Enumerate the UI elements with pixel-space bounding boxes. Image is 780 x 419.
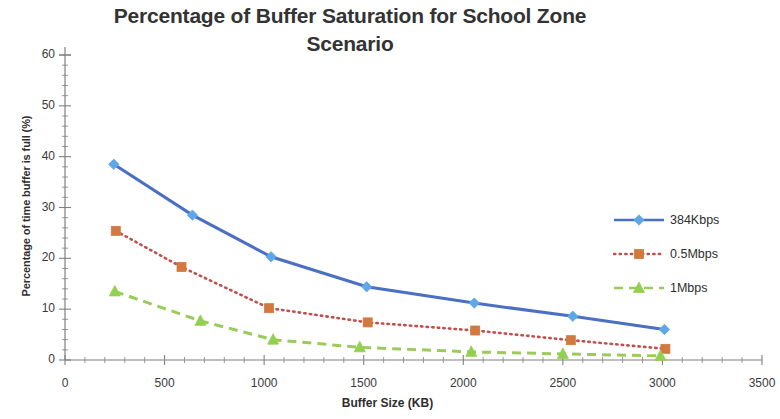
data-point-square xyxy=(265,304,274,313)
legend-label: 0.5Mbps xyxy=(666,247,718,261)
data-point-triangle xyxy=(195,315,206,326)
legend-item-1mbps[interactable]: 1Mbps xyxy=(612,271,762,305)
x-tick-label: 2000 xyxy=(433,376,493,390)
series-384kbps xyxy=(109,159,670,335)
legend-label: 384Kbps xyxy=(666,213,719,227)
data-point-square xyxy=(363,318,372,327)
legend-label: 1Mbps xyxy=(666,281,708,295)
legend-item-0-5mbps[interactable]: 0.5Mbps xyxy=(612,237,762,271)
data-point-square xyxy=(471,326,480,335)
legend-marker-triangle-icon xyxy=(612,279,666,297)
x-tick-label: 2500 xyxy=(533,376,593,390)
y-tick-label: 30 xyxy=(13,200,55,214)
x-tick-label: 3500 xyxy=(732,376,780,390)
data-point-diamond xyxy=(634,215,644,225)
x-tick-label: 3000 xyxy=(632,376,692,390)
legend-marker-diamond-icon xyxy=(612,211,666,229)
y-tick-label: 10 xyxy=(13,301,55,315)
data-point-triangle xyxy=(109,285,120,296)
data-point-diamond xyxy=(659,324,669,334)
y-tick-label: 20 xyxy=(13,250,55,264)
data-point-square xyxy=(111,226,120,235)
y-tick-label: 40 xyxy=(13,149,55,163)
chart-legend: 384Kbps0.5Mbps1Mbps xyxy=(612,203,762,305)
data-point-diamond xyxy=(362,282,372,292)
x-tick-label: 1500 xyxy=(334,376,394,390)
series-line xyxy=(114,164,665,329)
data-point-diamond xyxy=(266,252,276,262)
y-tick-label: 60 xyxy=(13,47,55,61)
data-point-diamond xyxy=(469,298,479,308)
y-tick-label: 0 xyxy=(13,352,55,366)
x-tick-label: 0 xyxy=(35,376,95,390)
legend-marker-square-icon xyxy=(612,245,666,263)
data-point-square xyxy=(661,344,670,353)
x-tick-label: 500 xyxy=(135,376,195,390)
data-point-square xyxy=(177,262,186,271)
data-point-square xyxy=(635,250,644,259)
data-point-square xyxy=(566,336,575,345)
y-tick-label: 50 xyxy=(13,98,55,112)
legend-item-384kbps[interactable]: 384Kbps xyxy=(612,203,762,237)
data-point-diamond xyxy=(568,311,578,321)
x-tick-label: 1000 xyxy=(234,376,294,390)
